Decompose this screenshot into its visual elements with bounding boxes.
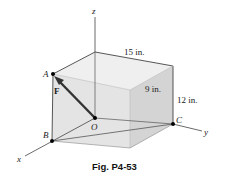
dimension-12in: 12 in. xyxy=(177,95,198,105)
dimension-15in: 15 in. xyxy=(124,47,145,57)
point-C xyxy=(171,122,175,126)
point-B-label: B xyxy=(43,130,49,140)
point-O xyxy=(93,116,97,120)
point-A-label: A xyxy=(42,69,49,79)
force-label: F xyxy=(54,86,60,96)
point-C-label: C xyxy=(176,115,183,125)
y-axis-label: y xyxy=(203,127,208,137)
x-axis-label: x xyxy=(16,154,21,164)
figure-caption: Fig. P4-53 xyxy=(92,161,137,172)
z-axis-label: z xyxy=(91,6,96,16)
box xyxy=(52,52,173,148)
figure-p4-53: z x y A B O C F 15 in. 9 in. 12 in. Fig.… xyxy=(0,0,226,181)
y-axis xyxy=(173,124,202,131)
point-O-label: O xyxy=(91,122,98,132)
dimension-9in: 9 in. xyxy=(145,84,161,94)
point-B xyxy=(50,139,54,143)
point-A xyxy=(51,72,55,76)
